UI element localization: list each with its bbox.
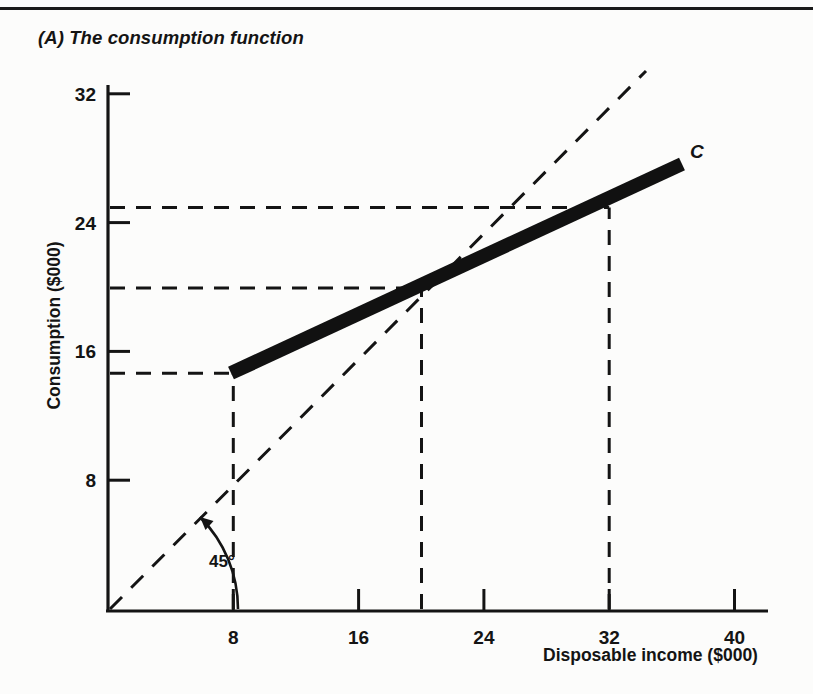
consumption-function-line: C <box>231 141 704 373</box>
forty-five-degree-line <box>110 71 646 609</box>
y-tick-label: 32 <box>75 84 96 105</box>
curve-label-c: C <box>690 141 704 162</box>
y-tick-label: 16 <box>75 341 96 362</box>
figure-panel: (A) The consumption function Consumption… <box>0 0 813 694</box>
chart-canvas: 8 16 24 32 8 16 24 32 40 <box>0 0 813 694</box>
x-tick-label: 24 <box>473 627 495 648</box>
y-tick-label: 8 <box>85 470 96 491</box>
x-axis-ticks: 8 16 24 32 40 <box>228 589 745 648</box>
angle-label: 45° <box>209 552 235 571</box>
guide-lines <box>110 208 609 610</box>
x-tick-label: 16 <box>348 627 369 648</box>
x-tick-label: 8 <box>228 627 239 648</box>
y-tick-label: 24 <box>75 213 97 234</box>
x-tick-label: 32 <box>599 627 620 648</box>
x-tick-label: 40 <box>724 627 745 648</box>
